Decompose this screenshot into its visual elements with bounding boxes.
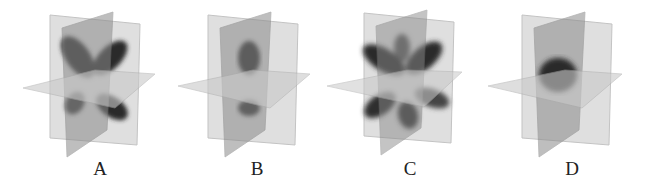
orbital-panel-b: B [158, 0, 318, 195]
orbital-panel-a: A [0, 0, 160, 195]
panel-label-b: B [237, 158, 277, 180]
orbital-diagram-d [470, 0, 630, 195]
panel-label-a: A [80, 158, 120, 180]
orbital-panel-c: C [312, 0, 472, 195]
orbital-panel-d: D [470, 0, 630, 195]
panel-label-d: D [552, 158, 592, 180]
panel-label-c: C [390, 158, 430, 180]
